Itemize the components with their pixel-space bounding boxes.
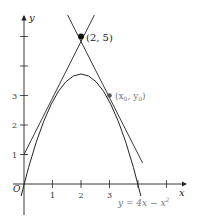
y-tick-3: 3 (12, 92, 17, 101)
x-tick-2: 2 (79, 191, 84, 200)
x-tick-3: 3 (107, 191, 112, 200)
origin-label: O (13, 184, 21, 194)
tangent-diagram: 1 2 3 1 2 3 y x O (2, 5) (x0, y0) y = 4x… (0, 0, 197, 221)
tangent-point-dot (107, 93, 112, 98)
tangent-point-label: (x0, y0) (115, 91, 146, 102)
x-tick-1: 1 (50, 191, 55, 200)
external-point-dot (78, 34, 84, 40)
y-axis-label: y (28, 12, 35, 23)
y-tick-1: 1 (12, 151, 17, 160)
x-axis-label: x (179, 187, 185, 198)
curve-equation-label: y = 4x − x2 (117, 196, 170, 208)
external-point-label: (2, 5) (86, 32, 113, 43)
y-tick-2: 2 (12, 121, 17, 130)
